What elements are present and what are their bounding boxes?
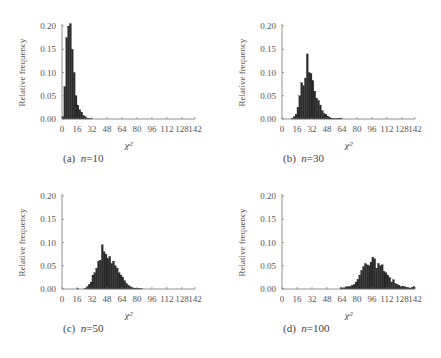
y-tick-label: 0.00 (260, 284, 276, 294)
x-tick-label: 80 (352, 294, 362, 304)
histogram-bar (374, 259, 376, 289)
histogram-bar (66, 38, 68, 119)
y-tick-label: 0.20 (260, 191, 276, 201)
chart-panel-d: 0.000.050.100.150.2001632486480961121281… (220, 170, 441, 358)
x-axis-label: χ² (343, 139, 353, 150)
y-tick-label: 0.15 (260, 214, 276, 224)
histogram-bar (383, 271, 385, 289)
y-tick-label: 0.20 (40, 21, 56, 31)
x-tick-label: 0 (60, 294, 65, 304)
histogram-bar (303, 86, 305, 119)
histogram-bar (83, 115, 85, 119)
histogram-bar (312, 81, 314, 119)
histogram-bar (124, 281, 126, 289)
y-axis-label: Relative frequency (17, 38, 27, 107)
histogram-bar (387, 275, 389, 289)
histogram-a: 0.000.050.100.150.2001632486480961121281… (0, 0, 220, 150)
caption-a: (a) n=10 (63, 152, 103, 164)
histogram-bar (353, 284, 355, 289)
x-tick-label: 142 (408, 124, 422, 134)
histogram-bar (126, 283, 128, 289)
histogram-bar (381, 265, 383, 289)
x-tick-label: 112 (160, 294, 173, 304)
x-axis-label: χ² (123, 309, 133, 320)
chart-panel-b: 0.000.050.100.150.2001632486480961121281… (220, 0, 441, 180)
x-axis-label: χ² (343, 309, 353, 320)
histogram-bar (81, 112, 83, 119)
histogram-bar (364, 263, 366, 289)
histogram-bar (99, 260, 101, 289)
histogram-bar (109, 256, 111, 289)
x-tick-label: 96 (147, 124, 157, 134)
histogram-bar (319, 105, 321, 119)
histogram-bar (396, 284, 398, 289)
histogram-bar (64, 86, 66, 119)
y-tick-label: 0.05 (260, 91, 276, 101)
y-axis-label: Relative frequency (237, 208, 247, 277)
x-tick-label: 16 (72, 294, 82, 304)
histogram-bar (120, 275, 122, 289)
y-tick-label: 0.05 (40, 91, 56, 101)
x-tick-label: 128 (175, 124, 189, 134)
x-tick-label: 32 (87, 124, 96, 134)
histogram-bar (107, 259, 109, 289)
y-tick-label: 0.05 (40, 261, 56, 271)
histogram-bar (314, 91, 316, 119)
histogram-bar (118, 273, 120, 289)
histogram-bar (316, 98, 318, 119)
x-tick-label: 0 (60, 124, 65, 134)
histogram-bar (368, 266, 370, 289)
histogram-bar (88, 284, 90, 289)
x-tick-label: 64 (117, 124, 127, 134)
histogram-bar (96, 268, 98, 289)
chart-panel-a: 0.000.050.100.150.2001632486480961121281… (0, 0, 220, 180)
x-tick-label: 64 (337, 124, 347, 134)
x-tick-label: 96 (367, 124, 377, 134)
y-tick-label: 0.15 (40, 44, 56, 54)
y-axis-label: Relative frequency (237, 38, 247, 107)
caption-c: (c) n=50 (63, 322, 103, 334)
histogram-bar (111, 263, 113, 289)
histogram-bar (351, 285, 353, 289)
x-tick-label: 32 (307, 124, 316, 134)
histogram-bar (105, 254, 107, 289)
x-tick-label: 32 (87, 294, 96, 304)
x-tick-label: 16 (292, 294, 302, 304)
histogram-bar (321, 111, 323, 119)
x-tick-label: 128 (175, 294, 189, 304)
y-axis-label: Relative frequency (17, 208, 27, 277)
x-tick-label: 142 (408, 294, 422, 304)
histogram-bar (393, 280, 395, 289)
x-tick-label: 16 (72, 124, 82, 134)
x-tick-label: 80 (132, 294, 142, 304)
histogram-bar (103, 252, 105, 289)
caption-d: (d) n=100 (283, 322, 330, 334)
histogram-bar (116, 268, 118, 289)
y-tick-label: 0.10 (40, 238, 56, 248)
x-tick-label: 96 (147, 294, 157, 304)
histogram-bar (77, 105, 79, 119)
y-tick-label: 0.10 (40, 68, 56, 78)
histogram-bar (92, 275, 94, 289)
y-tick-label: 0.15 (40, 214, 56, 224)
x-tick-label: 142 (188, 294, 202, 304)
histogram-bar (389, 277, 391, 289)
y-tick-label: 0.20 (260, 21, 276, 31)
histogram-bar (359, 275, 361, 289)
histogram-bar (71, 49, 73, 119)
histogram-bar (301, 83, 303, 119)
x-tick-label: 80 (132, 124, 142, 134)
histogram-bar (323, 113, 325, 119)
histogram-bar (299, 96, 301, 119)
x-tick-label: 112 (160, 124, 173, 134)
histogram-bar (318, 100, 320, 119)
y-tick-label: 0.10 (260, 68, 276, 78)
y-tick-label: 0.20 (40, 191, 56, 201)
histogram-c: 0.000.050.100.150.2001632486480961121281… (0, 170, 220, 320)
x-tick-label: 0 (280, 294, 285, 304)
histogram-bar (68, 26, 70, 119)
histogram-bars (77, 245, 143, 289)
x-tick-label: 48 (102, 294, 112, 304)
histogram-bars (291, 54, 342, 119)
histogram-bar (398, 285, 400, 289)
